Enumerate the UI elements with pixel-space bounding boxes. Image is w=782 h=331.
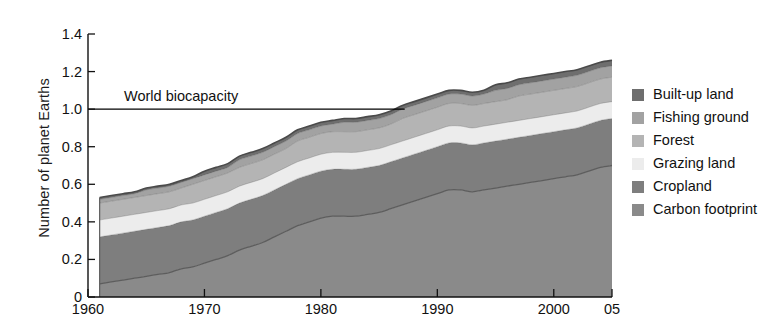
legend-swatch-icon	[632, 112, 644, 124]
legend-label: Fishing ground	[653, 109, 749, 127]
legend-label: Carbon footprint	[653, 201, 757, 219]
legend-item[interactable]: Fishing ground	[632, 109, 782, 127]
world-biocapacity-label: World biocapacity	[124, 88, 238, 104]
legend-swatch-icon	[632, 204, 644, 216]
chart-legend: Built-up landFishing groundForestGrazing…	[632, 86, 782, 224]
legend-label: Cropland	[653, 178, 712, 196]
legend-label: Grazing land	[653, 155, 735, 173]
legend-item[interactable]: Built-up land	[632, 86, 782, 104]
legend-label: Built-up land	[653, 86, 734, 104]
chart-page: Number of planet Earths 00.20.40.60.81.0…	[0, 0, 782, 331]
legend-item[interactable]: Forest	[632, 132, 782, 150]
legend-item[interactable]: Cropland	[632, 178, 782, 196]
legend-swatch-icon	[632, 89, 644, 101]
legend-item[interactable]: Grazing land	[632, 155, 782, 173]
legend-item[interactable]: Carbon footprint	[632, 201, 782, 219]
legend-swatch-icon	[632, 135, 644, 147]
legend-swatch-icon	[632, 181, 644, 193]
legend-swatch-icon	[632, 158, 644, 170]
legend-label: Forest	[653, 132, 694, 150]
